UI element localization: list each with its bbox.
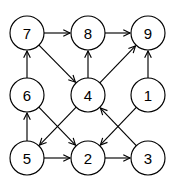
node-label: 7	[23, 25, 31, 42]
edge-line	[39, 45, 75, 82]
node-label: 3	[144, 150, 152, 167]
graph-canvas: 789641523	[0, 0, 175, 184]
edge-1-to-9	[145, 51, 152, 78]
node-label: 1	[144, 87, 152, 104]
node-label: 8	[84, 25, 92, 42]
node-label: 2	[84, 150, 92, 167]
graph-node-7[interactable]: 7	[10, 16, 44, 50]
node-label: 6	[23, 87, 31, 104]
graph-node-9[interactable]: 9	[131, 16, 165, 50]
nodes-layer: 789641523	[10, 16, 165, 175]
edge-7-to-4	[39, 45, 75, 82]
edge-5-to-6	[24, 113, 31, 141]
graph-diagram: 789641523	[0, 0, 175, 184]
graph-node-3[interactable]: 3	[131, 141, 165, 175]
graph-node-1[interactable]: 1	[131, 78, 165, 112]
edge-6-to-7	[24, 51, 31, 78]
graph-node-2[interactable]: 2	[71, 141, 105, 175]
graph-node-6[interactable]: 6	[10, 78, 44, 112]
edge-5-to-2	[44, 155, 70, 162]
edge-7-to-8	[44, 30, 70, 37]
graph-node-5[interactable]: 5	[10, 141, 44, 175]
graph-node-8[interactable]: 8	[71, 16, 105, 50]
edge-4-to-9	[100, 46, 136, 83]
edge-2-to-3	[105, 155, 130, 162]
edge-4-to-8	[85, 51, 92, 78]
graph-node-4[interactable]: 4	[71, 78, 105, 112]
node-label: 9	[144, 25, 152, 42]
node-label: 5	[23, 150, 31, 167]
edge-line	[100, 46, 136, 83]
edge-8-to-9	[105, 30, 130, 37]
node-label: 4	[84, 87, 92, 104]
